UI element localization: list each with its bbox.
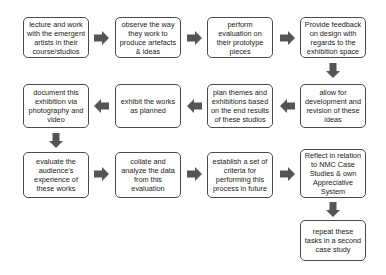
- arrow-down-icon: [326, 63, 340, 78]
- arrow-right-icon: [187, 31, 202, 45]
- arrow-down-icon: [49, 133, 63, 148]
- step-text: exhibit the works as planned: [119, 97, 177, 115]
- step-reflect: Reflect in relation to NMC Case Studies …: [300, 149, 366, 198]
- step-text: document this exhibition via photography…: [27, 88, 85, 124]
- step-document-exhibition: document this exhibition via photography…: [23, 84, 89, 128]
- arrow-right-icon: [280, 31, 295, 45]
- arrow-left-icon: [280, 99, 295, 113]
- step-text: evaluate the audience's experience of th…: [27, 157, 85, 193]
- arrow-right-icon: [187, 167, 202, 181]
- step-observe: observe the way they work to produce art…: [115, 17, 181, 58]
- step-text: observe the way they work to produce art…: [119, 20, 177, 56]
- step-establish-criteria: establish a set of criteria for performi…: [207, 152, 273, 198]
- step-text: allow for development and revision of th…: [304, 88, 362, 124]
- step-text: perform evaluation on their prototype pi…: [211, 20, 269, 56]
- arrow-down-icon: [326, 202, 340, 217]
- step-repeat-tasks: repeat these tasks in a second case stud…: [300, 220, 366, 261]
- step-text: repeat these tasks in a second case stud…: [304, 227, 362, 254]
- step-allow-development: allow for development and revision of th…: [300, 84, 366, 128]
- step-text: lecture and work with the emergent artis…: [27, 20, 85, 56]
- arrow-left-icon: [94, 99, 109, 113]
- step-text: Provide feedback on design with regards …: [304, 20, 362, 56]
- step-provide-feedback: Provide feedback on design with regards …: [300, 17, 366, 58]
- step-collate-analyze: collate and analyze the data from this e…: [115, 152, 181, 198]
- step-text: collate and analyze the data from this e…: [119, 157, 177, 193]
- step-text: plan themes and exhibitions based on the…: [211, 88, 269, 124]
- step-exhibit-works: exhibit the works as planned: [115, 84, 181, 128]
- arrow-right-icon: [94, 31, 109, 45]
- step-evaluate-audience: evaluate the audience's experience of th…: [23, 152, 89, 198]
- step-text: establish a set of criteria for performi…: [211, 157, 269, 193]
- step-plan-themes: plan themes and exhibitions based on the…: [207, 84, 273, 128]
- step-text: Reflect in relation to NMC Case Studies …: [304, 151, 362, 196]
- step-lecture-work: lecture and work with the emergent artis…: [23, 17, 89, 58]
- arrow-right-icon: [280, 167, 295, 181]
- arrow-right-icon: [94, 167, 109, 181]
- step-perform-evaluation: perform evaluation on their prototype pi…: [207, 17, 273, 58]
- arrow-left-icon: [187, 99, 202, 113]
